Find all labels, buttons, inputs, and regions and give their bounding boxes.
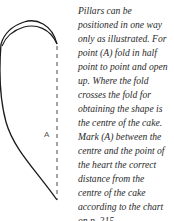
point-a-label: A xyxy=(44,131,49,139)
caption-line: Pillars can be xyxy=(78,4,174,18)
heart-outline-side xyxy=(0,44,57,200)
caption-line: crosses the fold for xyxy=(78,88,174,102)
instruction-caption: Pillars can be positioned in one way onl… xyxy=(78,4,174,221)
heart-outline-drawing xyxy=(0,0,80,221)
caption-line: distance from the xyxy=(78,172,174,186)
half-heart-diagram: A xyxy=(0,0,80,221)
caption-line: positioned in one way xyxy=(78,18,174,32)
caption-line: the centre of the cake. xyxy=(78,116,174,130)
caption-line: only as illustrated. For xyxy=(78,32,174,46)
caption-line: centre of the cake xyxy=(78,186,174,200)
caption-line: the heart the correct xyxy=(78,158,174,172)
caption-line: Mark (A) between the xyxy=(78,130,174,144)
caption-line: on p. 215. xyxy=(78,214,174,221)
caption-line: point to point and open xyxy=(78,60,174,74)
caption-line: obtaining the shape is xyxy=(78,102,174,116)
caption-line: centre and the point of xyxy=(78,144,174,158)
caption-line: according to the chart xyxy=(78,200,174,214)
caption-line: point (A) fold in half xyxy=(78,46,174,60)
caption-line: up. Where the fold xyxy=(78,74,174,88)
